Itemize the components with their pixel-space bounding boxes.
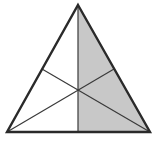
triangle-diagram [0,0,159,142]
